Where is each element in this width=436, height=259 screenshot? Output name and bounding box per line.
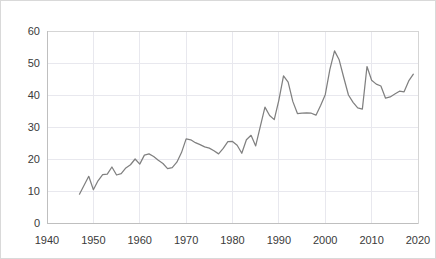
x-tick-label: 1940 — [35, 234, 59, 246]
x-tick-label: 1980 — [220, 234, 244, 246]
y-tick-label: 30 — [28, 121, 40, 133]
chart-figure: 0102030405060 19401950196019701980199020… — [0, 0, 436, 259]
x-tick-label: 1960 — [128, 234, 152, 246]
y-tick-label: 0 — [34, 217, 40, 229]
x-axis-tick-labels: 194019501960197019801990200020102020 — [35, 234, 430, 246]
y-tick-label: 20 — [28, 153, 40, 165]
x-tick-label: 2010 — [359, 234, 383, 246]
x-tick-label: 2020 — [406, 234, 430, 246]
x-tick-label: 1990 — [267, 234, 291, 246]
line-chart-svg: 0102030405060 19401950196019701980199020… — [1, 1, 436, 259]
y-tick-label: 50 — [28, 57, 40, 69]
data-series-line — [79, 51, 413, 194]
y-tick-label: 60 — [28, 25, 40, 37]
x-tick-label: 1950 — [81, 234, 105, 246]
y-axis-tick-labels: 0102030405060 — [28, 25, 40, 229]
y-tick-label: 10 — [28, 185, 40, 197]
x-tick-label: 2000 — [313, 234, 337, 246]
y-tick-label: 40 — [28, 89, 40, 101]
x-tick-label: 1970 — [174, 234, 198, 246]
